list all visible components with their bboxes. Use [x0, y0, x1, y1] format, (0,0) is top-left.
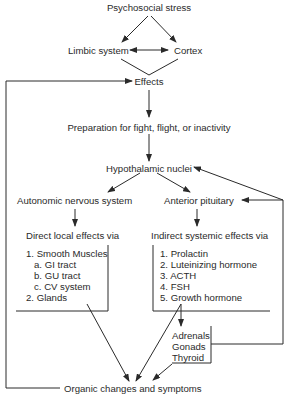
node-anterior-pituitary: Anterior pituitary — [164, 195, 234, 206]
list-item: Adrenals — [172, 330, 210, 341]
node-organic-changes: Organic changes and symptoms — [64, 383, 202, 394]
node-preparation: Preparation for fight, flight, or inacti… — [67, 122, 230, 133]
stress-response-diagram: Psychosocial stress Limbic system Cortex… — [0, 0, 292, 401]
node-psychosocial-stress: Psychosocial stress — [107, 2, 191, 13]
list-item: c. CV system — [34, 281, 91, 292]
node-autonomic-nervous-system: Autonomic nervous system — [17, 195, 132, 206]
node-indirect-systemic-effects: Indirect systemic effects via — [151, 230, 268, 241]
list-item: 2. Glands — [26, 292, 67, 303]
list-item: Gonads — [172, 341, 206, 352]
node-effects: Effects — [134, 76, 163, 87]
arrow-glands-organic — [153, 364, 172, 380]
list-item: 4. FSH — [160, 281, 190, 292]
arrow-direct-organic — [87, 304, 129, 381]
list-item: 3. ACTH — [160, 270, 196, 281]
converge-effects — [121, 59, 178, 75]
arrow-stress-limbic — [122, 16, 148, 42]
node-cortex: Cortex — [174, 45, 202, 56]
list-item: Thyroid — [172, 352, 204, 363]
list-item: 5. Growth hormone — [160, 292, 242, 303]
node-limbic-system: Limbic system — [68, 45, 129, 56]
arrow-hypothalamic-autonomic — [108, 173, 140, 192]
arrow-hypothalamic-pituitary — [157, 173, 190, 192]
feedback-glands-loop — [211, 200, 283, 344]
node-direct-local-effects: Direct local effects via — [26, 230, 119, 241]
list-item: 1. Prolactin — [160, 248, 208, 259]
list-item: 1. Smooth Muscles — [26, 248, 108, 259]
list-item: 2. Luteinizing hormone — [160, 259, 257, 270]
list-item: b. GU tract — [34, 270, 80, 281]
node-hypothalamic-nuclei: Hypothalamic nuclei — [106, 163, 192, 174]
arrow-stress-cortex — [151, 16, 176, 42]
list-item: a. GI tract — [34, 259, 76, 270]
